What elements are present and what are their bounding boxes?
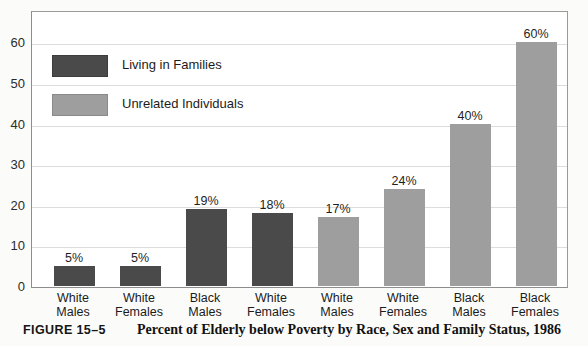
bar — [54, 266, 95, 286]
bar — [252, 213, 293, 286]
y-tick-label-50: 50 — [0, 76, 25, 91]
gridline-60 — [32, 44, 567, 45]
bar — [318, 217, 359, 286]
figure-title: Percent of Elderly below Poverty by Race… — [137, 322, 561, 338]
legend-swatch-icon-light — [52, 94, 108, 116]
bar-value-label: 24% — [374, 174, 435, 188]
bar — [450, 124, 491, 286]
y-tick-label-20: 20 — [0, 198, 25, 213]
bar-value-label: 5% — [110, 251, 171, 265]
bar — [186, 209, 227, 286]
bar-value-label: 60% — [506, 27, 567, 41]
figure-caption: FIGURE 15–5 Percent of Elderly below Pov… — [0, 320, 588, 346]
bar-value-label: 19% — [176, 194, 237, 208]
y-tick-label-30: 30 — [0, 157, 25, 172]
figure-container: 5%5%19%18%17%24%40%60% 6050403020100 Whi… — [0, 0, 588, 346]
x-category-line2: Females — [496, 306, 574, 320]
x-category-label: BlackFemales — [496, 292, 574, 319]
bar — [516, 42, 557, 286]
bar — [120, 266, 161, 286]
y-tick-label-40: 40 — [0, 117, 25, 132]
bar — [384, 189, 425, 286]
figure-number: FIGURE 15–5 — [23, 323, 106, 337]
y-tick-label-0: 0 — [0, 279, 25, 294]
bar-value-label: 40% — [440, 109, 501, 123]
y-tick-label-10: 10 — [0, 238, 25, 253]
y-tick-label-60: 60 — [0, 35, 25, 50]
chart-plot-frame: 5%5%19%18%17%24%40%60% — [31, 11, 568, 288]
bar-value-label: 17% — [308, 202, 369, 216]
legend-swatch-icon-dark — [52, 55, 108, 77]
legend-label-living-in-families: Living in Families — [122, 57, 222, 72]
x-category-line1: Black — [496, 292, 574, 306]
bar-value-label: 18% — [242, 198, 303, 212]
bar-value-label: 5% — [44, 251, 105, 265]
legend-label-unrelated-individuals: Unrelated Individuals — [122, 96, 243, 111]
gridline-50 — [32, 85, 567, 86]
chart-plot-area: 5%5%19%18%17%24%40%60% — [32, 12, 567, 287]
